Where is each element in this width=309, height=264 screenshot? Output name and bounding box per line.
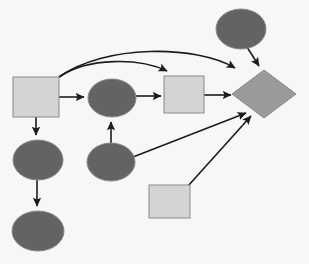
- edge-square3-to-diamond: [188, 116, 251, 186]
- node-diamond-1[interactable]: [232, 70, 296, 118]
- node-ellipse-3[interactable]: [88, 79, 136, 117]
- edge-layer: [36, 47, 259, 206]
- node-ellipse-2[interactable]: [12, 211, 64, 251]
- node-square-1[interactable]: [13, 77, 59, 117]
- node-ellipse-4[interactable]: [87, 143, 135, 181]
- node-square-2[interactable]: [164, 76, 204, 113]
- graph-svg: [0, 0, 309, 264]
- node-layer: [12, 9, 296, 251]
- diagram-canvas: [0, 0, 309, 264]
- node-square-3[interactable]: [149, 185, 190, 218]
- edge-ellipse5-to-diamond: [247, 47, 259, 66]
- edge-ellipse4-to-diamond: [133, 113, 246, 157]
- edge-square1-to-square2: [59, 62, 167, 77]
- node-ellipse-5[interactable]: [216, 9, 266, 49]
- node-ellipse-1[interactable]: [13, 140, 63, 180]
